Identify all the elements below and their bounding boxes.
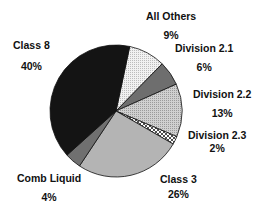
label-class-3-name: Class 3 [160,173,197,185]
label-all-others: All Others 9% [146,10,196,42]
label-division-2-2-name: Division 2.2 [193,88,251,100]
pie-slices [50,45,182,177]
label-class-3: Class 3 26% [160,173,197,201]
label-comb-liquid: Comb Liquid 4% [17,172,81,204]
label-class-8-pct: 40% [13,60,50,73]
label-division-2-2-pct: 13% [193,107,251,120]
label-all-others-pct: 9% [146,29,196,42]
label-class-8-name: Class 8 [13,39,50,51]
label-division-2-3-pct: 2% [188,142,246,155]
label-all-others-name: All Others [146,10,196,22]
label-division-2-2: Division 2.2 13% [193,88,251,120]
label-division-2-3-name: Division 2.3 [188,129,246,141]
label-comb-liquid-pct: 4% [17,191,81,204]
label-division-2-1: Division 2.1 6% [175,42,233,74]
label-class-3-pct: 26% [160,188,197,201]
label-division-2-1-pct: 6% [175,61,233,74]
label-division-2-1-name: Division 2.1 [175,42,233,54]
label-class-8: Class 8 40% [13,39,50,73]
label-division-2-3: Division 2.3 2% [188,129,246,155]
label-comb-liquid-name: Comb Liquid [17,172,81,184]
